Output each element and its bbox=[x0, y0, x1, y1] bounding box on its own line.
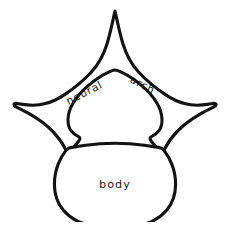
vertebra-diagram-figure: neural arch body bbox=[0, 0, 230, 231]
vertebra-illustration: neural arch body bbox=[0, 0, 230, 231]
label-body-text: body bbox=[99, 178, 131, 191]
